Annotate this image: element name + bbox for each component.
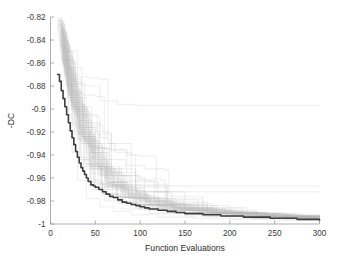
run-curve bbox=[59, 42, 319, 193]
x-tick-label: 150 bbox=[178, 229, 192, 238]
y-axis-title: -DC bbox=[6, 113, 16, 128]
x-tick-label: 200 bbox=[223, 229, 237, 238]
run-curve bbox=[60, 54, 319, 218]
run-curve bbox=[58, 24, 320, 217]
y-tick-label: -0.82 bbox=[27, 13, 46, 22]
run-curve bbox=[59, 40, 320, 217]
run-curve bbox=[59, 40, 319, 219]
run-curve bbox=[59, 49, 319, 218]
y-tick-label: -0.94 bbox=[27, 151, 46, 160]
run-curve bbox=[59, 38, 320, 219]
run-curve bbox=[60, 52, 319, 219]
y-tick-label: -0.84 bbox=[27, 36, 46, 45]
y-tick-label: -0.86 bbox=[27, 59, 46, 68]
run-curve bbox=[59, 33, 320, 219]
run-curve bbox=[59, 41, 320, 219]
y-tick-label: -0.98 bbox=[27, 197, 46, 206]
x-tick-label: 100 bbox=[133, 229, 147, 238]
y-tick-label: -0.92 bbox=[27, 128, 46, 137]
y-tick-label: -1 bbox=[38, 220, 46, 229]
y-tick-label: -0.9 bbox=[31, 105, 46, 114]
run-curve bbox=[60, 53, 319, 219]
run-curve bbox=[60, 56, 319, 218]
run-curve bbox=[59, 41, 319, 219]
run-curve bbox=[59, 48, 320, 219]
x-tick-label: 50 bbox=[91, 229, 101, 238]
individual-run-traces bbox=[58, 18, 320, 220]
run-curve bbox=[59, 39, 320, 218]
y-tick-label: -0.88 bbox=[27, 82, 46, 91]
x-tick-label: 300 bbox=[313, 229, 327, 238]
run-curve bbox=[59, 43, 319, 218]
y-tick-label: -0.96 bbox=[27, 174, 46, 183]
x-tick-label: 0 bbox=[48, 229, 53, 238]
convergence-chart-figure: 050100150200250300 -0.82-0.84-0.86-0.88-… bbox=[0, 0, 338, 267]
run-curve bbox=[59, 47, 319, 220]
run-curve bbox=[59, 45, 320, 219]
run-curve bbox=[59, 35, 319, 105]
x-axis-title: Function Evaluations bbox=[145, 243, 225, 253]
chart-canvas: 050100150200250300 -0.82-0.84-0.86-0.88-… bbox=[0, 0, 338, 267]
x-axis-tick-labels: 050100150200250300 bbox=[48, 221, 327, 239]
run-curve bbox=[59, 38, 320, 188]
run-curve bbox=[59, 32, 320, 219]
y-axis-tick-labels: -0.82-0.84-0.86-0.88-0.9-0.92-0.94-0.96-… bbox=[27, 13, 54, 229]
x-tick-label: 250 bbox=[268, 229, 282, 238]
